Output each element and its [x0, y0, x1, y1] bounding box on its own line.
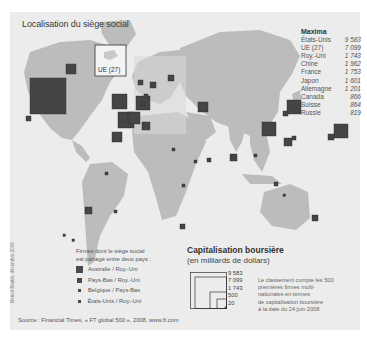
eu-label: UE (27): [98, 66, 120, 73]
size-scale-legend: [190, 272, 230, 312]
hq-israel: [194, 160, 197, 163]
maxima-row: Suisse864: [301, 101, 361, 109]
maxima-row: Canada866: [301, 93, 361, 101]
hq-south-africa: [180, 224, 185, 229]
hq-japan: [287, 100, 301, 114]
hq-sweden: [138, 80, 143, 85]
hq-spain: [112, 132, 122, 142]
hq-thailand: [254, 154, 257, 157]
hq-turkey: [172, 148, 175, 151]
maxima-row: Chine1 962: [301, 60, 361, 68]
hq-india: [230, 154, 237, 161]
maxima-row: France1 753: [301, 68, 361, 76]
maxima-row: UE (27)7 099: [301, 44, 361, 52]
author-credit: Benoît Martin, décembre 2008: [10, 242, 15, 303]
hq-uk: [112, 94, 127, 109]
capitalisation-subtitle: (en milliards de dollars): [187, 256, 270, 265]
hq-denmark: [144, 94, 148, 98]
australia: [260, 184, 310, 230]
hq-norway: [168, 75, 174, 81]
hq-egypt: [182, 184, 185, 187]
hq-australia: [312, 215, 318, 221]
hq-brazil: [85, 207, 92, 214]
maxima-heading: Maxima: [301, 28, 361, 36]
maxima-row: Allemagne1 201: [301, 85, 361, 93]
hq-indonesia: [283, 194, 286, 197]
hq-nigeria: [114, 210, 117, 213]
hq-morocco: [105, 172, 108, 175]
hq-canada: [66, 64, 76, 74]
hq-japan-east: [334, 124, 348, 138]
map-title: Localisation du siège social: [22, 19, 129, 29]
hq-argentina: [72, 239, 75, 242]
hq-usa: [30, 78, 66, 114]
hq-singapore: [274, 182, 278, 186]
maxima-table: Maxima États-Unis9 583 UE (27)7 099 Roy.…: [301, 28, 361, 117]
hq-mexico: [26, 116, 31, 121]
hq-netherlands: [141, 102, 145, 106]
hq-japan-east-small: [328, 134, 334, 140]
square-icon: [78, 289, 81, 292]
legend-item: Belgique / Pays-Bas: [76, 287, 151, 295]
legend-item: Pays-Bas / Roy.-Uni: [76, 277, 151, 285]
ranking-note: Le classement compte les 500 premières f…: [258, 277, 358, 313]
maxima-row: États-Unis9 583: [301, 36, 361, 44]
hq-taiwan: [292, 136, 296, 140]
shared-hq-legend: Firmes dont le siège social est partagé …: [76, 248, 151, 305]
hq-russia: [198, 102, 208, 112]
legend-item: États-Unis / Roy.-Uni: [76, 298, 151, 306]
square-icon: [78, 300, 81, 303]
maxima-row: Roy.-Uni1 743: [301, 52, 361, 60]
hq-benelux: [128, 112, 140, 124]
maxima-row: Japon1 601: [301, 77, 361, 85]
hq-finland: [150, 82, 156, 88]
hq-saudi: [207, 158, 211, 162]
square-icon: [77, 278, 82, 283]
india: [228, 124, 246, 152]
hq-switzerland: [142, 122, 150, 130]
square-icon: [76, 266, 83, 273]
legend-item: Australie / Roy.-Uni: [76, 266, 151, 274]
source-line: Source : Financial Times, « FT global 50…: [18, 317, 179, 323]
southeast-asia: [250, 130, 270, 172]
capitalisation-title: Capitalisation boursière: [187, 245, 284, 255]
maxima-row: Russie819: [301, 109, 361, 117]
hq-korea: [284, 138, 292, 146]
hq-japan-small: [283, 111, 288, 116]
hq-chile: [63, 234, 66, 237]
hq-china: [262, 122, 276, 136]
scale-values: 9 583 7 099 1 743 500 20: [228, 270, 243, 307]
central-america: [72, 140, 90, 162]
